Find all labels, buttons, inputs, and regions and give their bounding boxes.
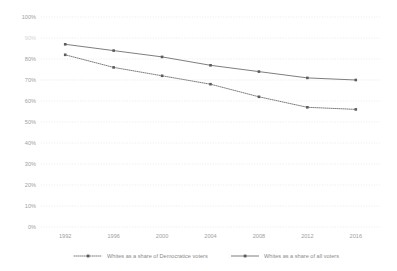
legend-swatch-marker: [87, 255, 90, 258]
y-axis-tick-label: 60%: [25, 98, 36, 104]
y-axis-tick-label: 10%: [25, 203, 36, 209]
data-point-marker: [306, 106, 309, 109]
data-point-marker: [258, 70, 261, 73]
chart-canvas: 0%10%20%30%40%50%60%70%80%90%100% 199219…: [0, 0, 397, 271]
x-axis-tick-label: 1996: [107, 233, 119, 239]
line-chart: 0%10%20%30%40%50%60%70%80%90%100% 199219…: [0, 0, 397, 271]
x-axis-tick-label: 2012: [301, 233, 313, 239]
y-axis-tick-label: 90%: [25, 35, 36, 41]
data-point-marker: [306, 77, 309, 80]
y-axis-tick-label: 50%: [25, 119, 36, 125]
x-axis-tick-label: 2016: [350, 233, 362, 239]
data-point-marker: [354, 79, 357, 82]
data-point-marker: [112, 66, 115, 69]
y-axis-tick-label: 70%: [25, 77, 36, 83]
chart-background: [0, 0, 397, 271]
y-axis-tick-label: 30%: [25, 161, 36, 167]
x-axis-tick-label: 2004: [204, 233, 216, 239]
chart-legend: Whites as a share of Democratice votersW…: [74, 253, 339, 259]
data-point-marker: [64, 54, 67, 57]
x-axis-tick-label: 2008: [253, 233, 265, 239]
legend-swatch-marker: [244, 255, 247, 258]
legend-entry-label: Whites as a share of Democratice voters: [107, 253, 208, 259]
x-axis-tick-label: 1992: [59, 233, 71, 239]
y-axis-tick-label: 100%: [22, 14, 36, 20]
data-point-marker: [209, 83, 212, 86]
y-axis-tick-label: 0%: [28, 224, 36, 230]
y-axis-tick-label: 20%: [25, 182, 36, 188]
data-point-marker: [354, 108, 357, 111]
y-axis-tick-label: 80%: [25, 56, 36, 62]
y-axis-tick-label: 40%: [25, 140, 36, 146]
legend-entry-label: Whites as a share of all voters: [264, 253, 339, 259]
data-point-marker: [161, 75, 164, 78]
data-point-marker: [112, 49, 115, 52]
data-point-marker: [161, 56, 164, 59]
x-axis-tick-label: 2000: [156, 233, 168, 239]
data-point-marker: [209, 64, 212, 67]
data-point-marker: [258, 96, 261, 99]
data-point-marker: [64, 43, 67, 46]
